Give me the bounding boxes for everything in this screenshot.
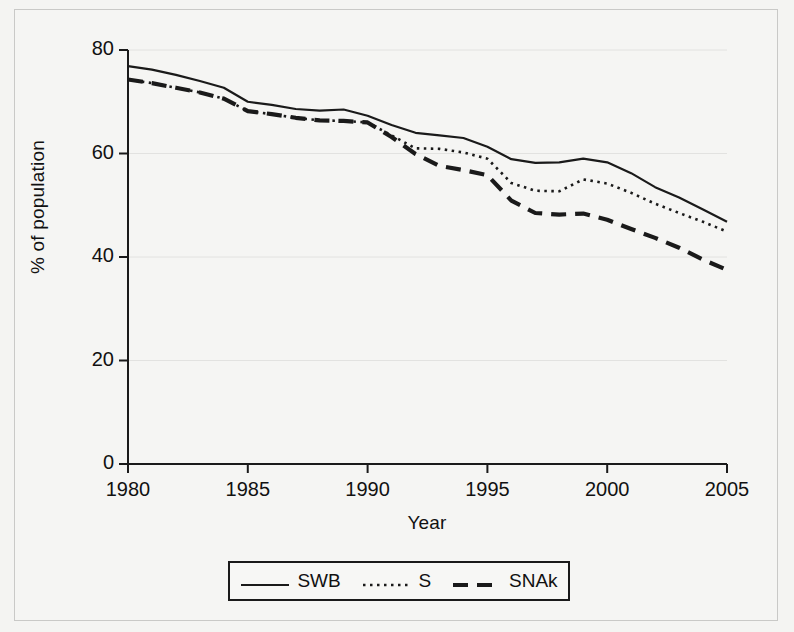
y-tick-label: 60 xyxy=(68,141,114,164)
x-tick-label: 1985 xyxy=(208,478,288,501)
y-tick-label: 40 xyxy=(68,244,114,267)
x-axis-title-wrap: Year xyxy=(327,512,527,534)
data-series-layer xyxy=(128,66,727,270)
line-chart xyxy=(0,0,794,632)
legend-label: S xyxy=(419,570,432,592)
legend-entry-SNAk: SNAk xyxy=(452,570,558,592)
series-line-SNAk xyxy=(128,80,727,270)
x-tick-label: 2000 xyxy=(567,478,647,501)
x-tick-label: 2005 xyxy=(687,478,767,501)
series-line-S xyxy=(128,80,727,232)
legend-label: SWB xyxy=(297,570,340,592)
series-line-SWB xyxy=(128,66,727,222)
legend-key-solid-icon xyxy=(240,576,290,586)
x-axis-title: Year xyxy=(407,512,446,533)
y-tick-label: 20 xyxy=(68,348,114,371)
legend-label: SNAk xyxy=(509,570,558,592)
legend-entry-S: S xyxy=(362,570,432,592)
y-tick-label: 0 xyxy=(68,451,114,474)
y-tick-label: 80 xyxy=(68,37,114,60)
legend-entry-SWB: SWB xyxy=(240,570,340,592)
chart-page: % of population Year 020406080 198019851… xyxy=(0,0,794,632)
legend-key-dotted-icon xyxy=(362,576,412,586)
y-axis-title: % of population xyxy=(27,140,48,274)
x-tick-label: 1995 xyxy=(447,478,527,501)
legend-key-dashed-icon xyxy=(452,576,502,586)
x-tick-label: 1980 xyxy=(88,478,168,501)
tick-marks xyxy=(119,50,727,473)
x-tick-label: 1990 xyxy=(328,478,408,501)
y-axis-title-wrap: % of population xyxy=(27,107,49,307)
chart-legend: SWBSSNAk xyxy=(228,561,570,601)
